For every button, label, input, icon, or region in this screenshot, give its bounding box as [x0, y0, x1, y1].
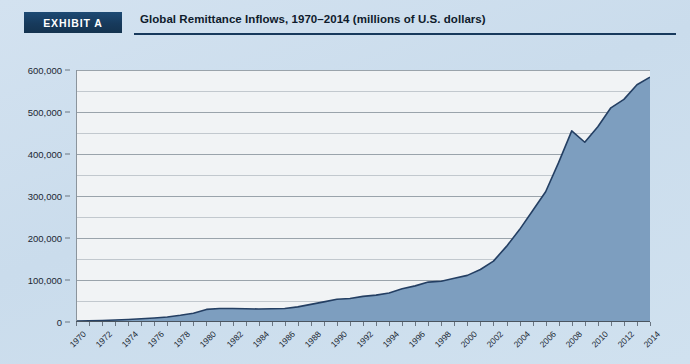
x-tick-mark — [350, 322, 351, 326]
x-tick-label: 1980 — [198, 329, 218, 349]
x-tick-label: 1984 — [250, 329, 270, 349]
x-tick-label: 2000 — [459, 329, 479, 349]
x-tick-label: 1994 — [381, 329, 401, 349]
y-axis-line — [76, 70, 77, 322]
x-tick-mark — [89, 322, 90, 326]
y-tick-mark — [65, 322, 70, 323]
x-tick-mark — [389, 322, 390, 326]
x-tick-mark — [298, 322, 299, 326]
x-tick-mark — [363, 322, 364, 326]
y-tick-label: 300,000 — [28, 191, 62, 202]
x-tick-label: 2014 — [642, 329, 662, 349]
x-tick-label: 2012 — [616, 329, 636, 349]
x-tick-mark — [167, 322, 168, 326]
x-tick-mark — [572, 322, 573, 326]
x-tick-mark — [507, 322, 508, 326]
x-tick-label: 1978 — [172, 329, 192, 349]
x-tick-mark — [220, 322, 221, 326]
y-tick-label: 400,000 — [28, 149, 62, 160]
x-tick-mark — [546, 322, 547, 326]
x-tick-mark — [259, 322, 260, 326]
x-tick-label: 1976 — [146, 329, 166, 349]
x-tick-label: 1992 — [355, 329, 375, 349]
x-tick-label: 1982 — [224, 329, 244, 349]
x-tick-mark — [611, 322, 612, 326]
x-tick-mark — [180, 322, 181, 326]
x-tick-label: 1986 — [276, 329, 296, 349]
page-title: Global Remittance Inflows, 1970–2014 (mi… — [140, 13, 486, 25]
x-tick-mark — [454, 322, 455, 326]
x-tick-mark — [402, 322, 403, 326]
y-tick-mark — [65, 196, 70, 197]
figure-header: EXHIBIT A Global Remittance Inflows, 197… — [24, 12, 676, 36]
y-tick-mark — [65, 154, 70, 155]
x-tick-mark — [141, 322, 142, 326]
x-tick-mark — [337, 322, 338, 326]
y-tick-mark — [65, 280, 70, 281]
x-tick-mark — [467, 322, 468, 326]
x-tick-mark — [76, 322, 77, 326]
x-tick-mark — [311, 322, 312, 326]
x-tick-mark — [102, 322, 103, 326]
x-tick-label: 1998 — [433, 329, 453, 349]
x-tick-label: 2004 — [511, 329, 531, 349]
x-tick-label: 1988 — [302, 329, 322, 349]
x-tick-mark — [246, 322, 247, 326]
y-axis: 0100,000200,000300,000400,000500,000600,… — [0, 70, 70, 322]
x-tick-mark — [376, 322, 377, 326]
x-tick-mark — [533, 322, 534, 326]
area-fill-path — [76, 77, 650, 322]
x-tick-label: 2008 — [563, 329, 583, 349]
x-tick-mark — [585, 322, 586, 326]
header-rule — [134, 33, 676, 35]
y-tick-mark — [65, 112, 70, 113]
x-tick-label: 1970 — [68, 329, 88, 349]
x-tick-label: 1972 — [94, 329, 114, 349]
x-axis: 1970197219741976197819801982198419861988… — [76, 322, 650, 364]
x-tick-mark — [650, 322, 651, 326]
y-tick-mark — [65, 238, 70, 239]
x-tick-mark — [480, 322, 481, 326]
x-tick-mark — [598, 322, 599, 326]
y-tick-mark — [65, 70, 70, 71]
x-tick-mark — [624, 322, 625, 326]
x-tick-mark — [415, 322, 416, 326]
exhibit-figure: EXHIBIT A Global Remittance Inflows, 197… — [0, 0, 690, 364]
x-tick-mark — [285, 322, 286, 326]
x-tick-mark — [520, 322, 521, 326]
x-tick-mark — [559, 322, 560, 326]
x-tick-label: 2010 — [589, 329, 609, 349]
x-tick-label: 2002 — [485, 329, 505, 349]
x-tick-mark — [206, 322, 207, 326]
y-tick-label: 100,000 — [28, 275, 62, 286]
y-tick-label: 200,000 — [28, 233, 62, 244]
y-tick-label: 0 — [57, 317, 62, 328]
x-tick-mark — [154, 322, 155, 326]
x-tick-mark — [637, 322, 638, 326]
x-tick-label: 1974 — [120, 329, 140, 349]
y-tick-label: 500,000 — [28, 107, 62, 118]
area-series — [76, 70, 650, 322]
x-tick-label: 1996 — [407, 329, 427, 349]
x-tick-mark — [493, 322, 494, 326]
x-tick-mark — [441, 322, 442, 326]
x-tick-mark — [272, 322, 273, 326]
x-tick-mark — [233, 322, 234, 326]
x-tick-mark — [128, 322, 129, 326]
y-tick-label: 600,000 — [28, 65, 62, 76]
x-tick-mark — [428, 322, 429, 326]
chart-plot-area — [76, 70, 650, 322]
exhibit-badge: EXHIBIT A — [24, 12, 122, 33]
x-tick-label: 2006 — [537, 329, 557, 349]
x-tick-label: 1990 — [329, 329, 349, 349]
x-tick-mark — [115, 322, 116, 326]
x-tick-mark — [324, 322, 325, 326]
x-tick-mark — [193, 322, 194, 326]
